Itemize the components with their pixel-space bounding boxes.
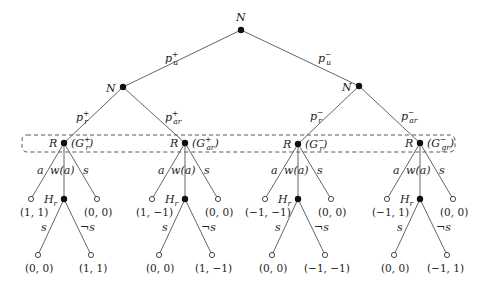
svg-text:(G+r): (G+r) xyxy=(71,135,93,152)
svg-text:a: a xyxy=(393,164,400,177)
svg-text:(G−r): (G−r) xyxy=(305,136,327,153)
svg-text:(−1, 1): (−1, 1) xyxy=(427,262,464,274)
svg-text:s: s xyxy=(439,164,445,177)
svg-text:s: s xyxy=(204,164,210,177)
root-node xyxy=(238,27,244,33)
game-tree-diagram: N p+u p−u N N p+r p+ar p−r p−ar R (G+r) … xyxy=(0,0,487,288)
svg-text:w(a): w(a) xyxy=(406,164,431,177)
svg-text:(−1, 1): (−1, 1) xyxy=(372,206,409,218)
svg-text:w(a): w(a) xyxy=(50,164,75,177)
svg-text:(1, −1): (1, −1) xyxy=(136,206,173,218)
edge-root-left xyxy=(123,30,241,87)
edge-root-right xyxy=(241,30,359,86)
svg-text:s: s xyxy=(41,221,47,234)
prob-ar-minus: p−ar xyxy=(401,108,418,125)
svg-text:s: s xyxy=(275,221,281,234)
chance-node-left-label: N xyxy=(105,82,116,95)
svg-text:s: s xyxy=(317,164,323,177)
hr-node-2 xyxy=(182,196,188,202)
svg-text:(0, 0): (0, 0) xyxy=(259,262,287,274)
svg-text:(0, 0): (0, 0) xyxy=(381,262,409,274)
svg-text:(1, 1): (1, 1) xyxy=(20,206,48,218)
svg-text:a: a xyxy=(158,164,165,177)
svg-text:¬s: ¬s xyxy=(80,221,95,234)
hr-node-4 xyxy=(417,196,423,202)
svg-text:(0, 0): (0, 0) xyxy=(205,206,233,218)
svg-text:a: a xyxy=(37,164,44,177)
chance-node-left xyxy=(120,84,126,90)
receiver-node-4 xyxy=(417,140,423,146)
prob-root-left: p+u xyxy=(165,50,178,67)
svg-text:s: s xyxy=(397,221,403,234)
prob-r-minus: p−r xyxy=(310,108,323,125)
svg-text:(1, 1): (1, 1) xyxy=(79,262,107,274)
subtree-1-labels: R (G+r) a w(a) s Hr (1, 1) (0, 0) s ¬s (… xyxy=(20,135,112,274)
svg-text:(G+ar): (G+ar) xyxy=(192,135,219,152)
receiver-node-1 xyxy=(61,140,67,146)
hr-node-3 xyxy=(295,196,301,202)
prob-ar-plus: p+ar xyxy=(165,109,182,126)
root-label: N xyxy=(235,11,246,24)
svg-text:¬s: ¬s xyxy=(436,221,451,234)
subtree-3-labels: R (G−r) a w(a) s Hr (−1, −1) (0, 0) s ¬s… xyxy=(245,136,350,274)
svg-text:(0, 0): (0, 0) xyxy=(318,206,346,218)
svg-text:(−1, −1): (−1, −1) xyxy=(245,206,291,218)
receiver-node-3 xyxy=(295,141,301,147)
svg-text:w(a): w(a) xyxy=(284,164,309,177)
svg-text:¬s: ¬s xyxy=(201,221,216,234)
svg-text:R: R xyxy=(48,137,57,150)
svg-text:(0, 0): (0, 0) xyxy=(25,262,53,274)
chance-node-right xyxy=(356,83,362,89)
prob-root-right: p−u xyxy=(318,50,331,67)
svg-text:R: R xyxy=(404,137,413,150)
svg-text:(1, −1): (1, −1) xyxy=(195,262,232,274)
svg-text:(0, 0): (0, 0) xyxy=(440,206,468,218)
svg-text:(0, 0): (0, 0) xyxy=(84,206,112,218)
svg-text:(G−gr): (G−gr) xyxy=(427,135,454,152)
svg-text:R: R xyxy=(282,138,291,151)
chance-node-right-label: N xyxy=(341,81,352,94)
svg-text:(−1, −1): (−1, −1) xyxy=(304,262,350,274)
svg-text:s: s xyxy=(83,164,89,177)
svg-text:w(a): w(a) xyxy=(171,164,196,177)
hr-node-1 xyxy=(61,196,67,202)
prob-r-plus: p+r xyxy=(76,109,89,126)
svg-text:a: a xyxy=(271,164,278,177)
receiver-node-2 xyxy=(182,140,188,146)
svg-text:(0, 0): (0, 0) xyxy=(146,262,174,274)
svg-text:R: R xyxy=(169,137,178,150)
svg-text:s: s xyxy=(162,221,168,234)
svg-text:¬s: ¬s xyxy=(314,221,329,234)
